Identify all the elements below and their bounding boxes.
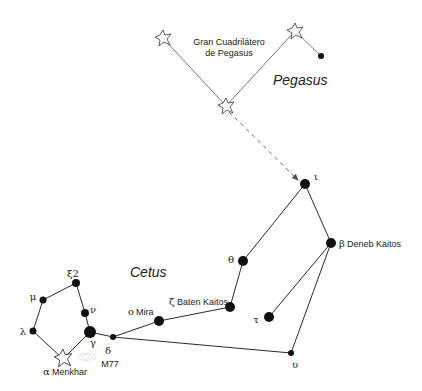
pointer-arrow [229,112,298,180]
star-upsilon [288,350,294,356]
star-iota [300,179,310,189]
star-chart: Gran Cuadrilátero de Pegasus Pegasus Cet… [0,0,422,391]
m77-galaxy [78,354,96,361]
label-xi2: ξ2 [67,268,79,279]
label-alpha-name: Menkhar [52,367,87,377]
label-alpha-greek: α [43,366,50,377]
label-iota: ι [314,171,318,182]
label-zeta-greek: ζ [169,296,175,307]
cetus-tail-line [269,243,331,317]
pegasus-label: Pegasus [273,72,327,88]
galaxy-icon [78,354,96,361]
star-xi2 [72,279,80,287]
label-omicron-name: Mira [136,307,154,317]
cetus-body-line [90,184,331,353]
star-delta [110,334,116,340]
open-star-icon [155,30,171,46]
galaxy-core-icon [82,355,92,359]
label-mu: μ [30,291,37,302]
star-nu [81,309,89,317]
cetus-head-line [33,283,90,359]
star-tau [264,312,274,322]
label-nu: ν [90,304,96,315]
star-alpha [54,349,72,367]
label-beta-greek: β [339,238,345,249]
star-beta [326,238,336,248]
label-upsilon: υ [292,359,298,370]
star-theta [238,256,248,266]
pegasus-star-left [155,30,171,46]
star-lambda [30,328,37,335]
cetus-label: Cetus [130,264,167,280]
asterism-label-line2: de Pegasus [205,48,253,58]
star-mu [40,297,47,304]
asterism-label-line1: Gran Cuadrilátero [193,37,265,47]
label-lambda: λ [20,326,27,337]
label-gamma: γ [90,337,96,348]
label-omicron-greek: o [128,306,134,317]
star-omicron [154,316,164,326]
label-zeta-name: Baten Kaitos [177,297,229,307]
label-beta-name: Deneb Kaitos [347,239,402,249]
open-star-icon [54,349,72,367]
label-tau: τ [253,314,259,325]
pegasus-star-dot [318,53,324,59]
label-theta: θ [228,254,234,265]
label-delta: δ [105,345,111,356]
label-m77: M77 [101,359,119,369]
